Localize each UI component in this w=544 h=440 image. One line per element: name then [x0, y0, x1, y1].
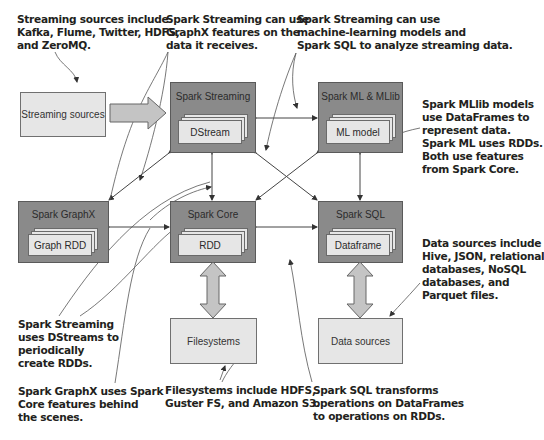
filesystems-label: Filesystems	[187, 336, 240, 347]
core-filesystems-arrow	[200, 262, 226, 318]
data-sources-label: Data sources	[331, 336, 390, 347]
sql-datasources-arrow	[347, 262, 373, 318]
filesystems-box: Filesystems	[170, 318, 257, 364]
data-sources-box: Data sources	[318, 318, 403, 364]
